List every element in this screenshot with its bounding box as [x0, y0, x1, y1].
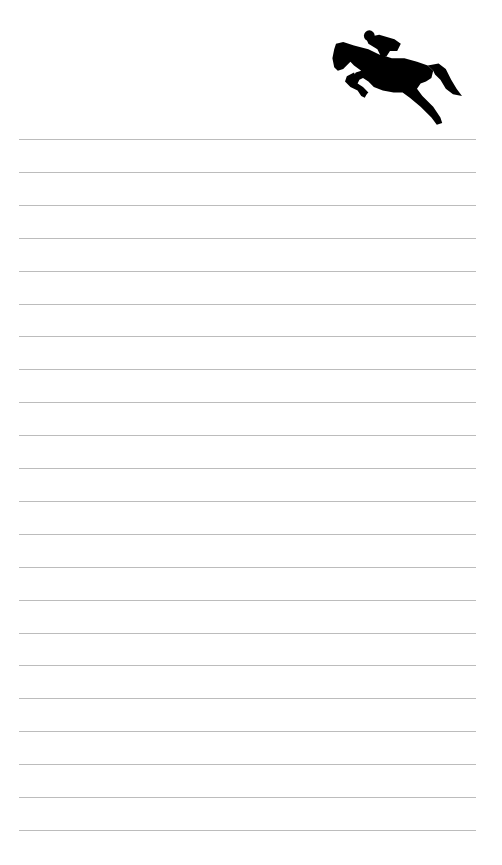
ruled-line	[19, 797, 476, 798]
ruled-line	[19, 172, 476, 173]
ruled-line	[19, 435, 476, 436]
ruled-line	[19, 336, 476, 337]
ruled-line	[19, 139, 476, 140]
ruled-line	[19, 698, 476, 699]
ruled-line	[19, 830, 476, 831]
ruled-line	[19, 534, 476, 535]
ruled-line	[19, 764, 476, 765]
ruled-line	[19, 468, 476, 469]
ruled-line	[19, 633, 476, 634]
ruled-lines	[19, 0, 476, 865]
ruled-line	[19, 205, 476, 206]
ruled-line	[19, 501, 476, 502]
ruled-line	[19, 271, 476, 272]
ruled-line	[19, 402, 476, 403]
ruled-line	[19, 665, 476, 666]
ruled-line	[19, 304, 476, 305]
ruled-line	[19, 731, 476, 732]
ruled-line	[19, 238, 476, 239]
ruled-line	[19, 567, 476, 568]
ruled-line	[19, 369, 476, 370]
notepad-page	[0, 0, 502, 865]
ruled-line	[19, 600, 476, 601]
